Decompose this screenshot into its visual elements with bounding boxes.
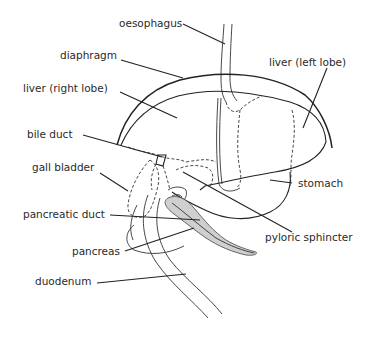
label-pancreatic-duct: pancreatic duct [23,208,105,220]
label-oesophagus: oesophagus [119,17,182,29]
leader-oesophagus [183,24,225,44]
label-gall-bladder: gall bladder [32,161,95,173]
leader-bile-duct [83,135,162,157]
label-liver-left-lobe: liver (left lobe) [269,56,346,68]
leader-pancreas [125,228,194,251]
label-diaphragm: diaphragm [60,49,117,61]
leader-gall-bladder [100,173,128,191]
leader-diaphragm [121,60,183,78]
label-pyloric-sphincter: pyloric sphincter [265,231,353,243]
digestive-system-diagram: oesophagus diaphragm liver (right lobe) … [0,0,366,337]
label-stomach: stomach [298,177,343,189]
label-bile-duct: bile duct [27,128,73,140]
diaphragm-shape [117,74,332,148]
gall-bladder-shape [128,160,159,217]
label-pancreas: pancreas [72,245,120,257]
label-duodenum: duodenum [35,275,91,287]
oesophagus-shape [221,24,237,102]
bile-duct-shape [151,155,170,190]
label-liver-right-lobe: liver (right lobe) [23,82,108,94]
hidden-stomach-outline [128,96,294,188]
leader-stomach [270,180,292,183]
